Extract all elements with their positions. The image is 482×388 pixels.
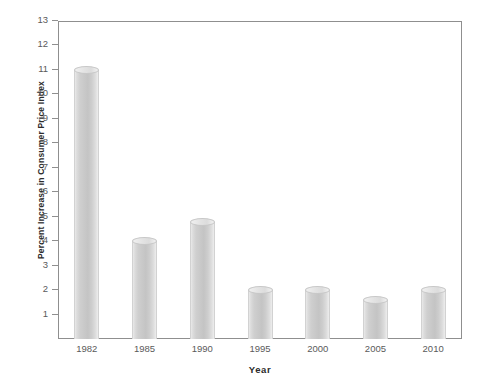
y-tick-label: 9: [0, 112, 48, 123]
bar-body: [421, 290, 446, 339]
x-tick-label: 1985: [134, 343, 155, 354]
bar-top-ellipse: [248, 286, 273, 294]
bar-body: [248, 290, 273, 339]
x-tick-label: 1990: [192, 343, 213, 354]
bar[interactable]: [248, 290, 273, 339]
x-tick-label: 2005: [365, 343, 386, 354]
bar-body: [74, 70, 99, 339]
y-tick-label: 2: [0, 283, 48, 294]
y-tick-label: 11: [0, 63, 48, 74]
bar[interactable]: [190, 222, 215, 339]
bar-body: [305, 290, 330, 339]
y-tick-label: 5: [0, 210, 48, 221]
bar[interactable]: [305, 290, 330, 339]
bar-chart: Percent Increase in Consumer Price Index…: [0, 0, 482, 388]
y-tick-label: 10: [0, 87, 48, 98]
y-tick-label: 1: [0, 308, 48, 319]
bar[interactable]: [132, 241, 157, 339]
x-tick-label: 1982: [76, 343, 97, 354]
bar[interactable]: [74, 70, 99, 339]
x-tick-label: 1995: [249, 343, 270, 354]
bar[interactable]: [363, 300, 388, 339]
x-tick-label: 2000: [307, 343, 328, 354]
x-axis: 1982198519901995200020052010: [58, 343, 462, 359]
x-axis-title: Year: [58, 364, 462, 375]
y-tick-label: 3: [0, 259, 48, 270]
bar-top-ellipse: [421, 286, 446, 294]
y-tick-label: 13: [0, 14, 48, 25]
y-tick-label: 12: [0, 38, 48, 49]
bar-body: [132, 241, 157, 339]
bars-container: [58, 21, 462, 339]
bar-body: [363, 300, 388, 339]
bar[interactable]: [421, 290, 446, 339]
y-tick-label: 4: [0, 234, 48, 245]
y-tick-label: 8: [0, 136, 48, 147]
bar-top-ellipse: [190, 218, 215, 226]
bar-body: [190, 222, 215, 339]
bar-top-ellipse: [363, 296, 388, 304]
bar-top-ellipse: [74, 66, 99, 74]
x-tick-label: 2010: [423, 343, 444, 354]
y-tick-label: 7: [0, 161, 48, 172]
y-tick-label: 6: [0, 185, 48, 196]
